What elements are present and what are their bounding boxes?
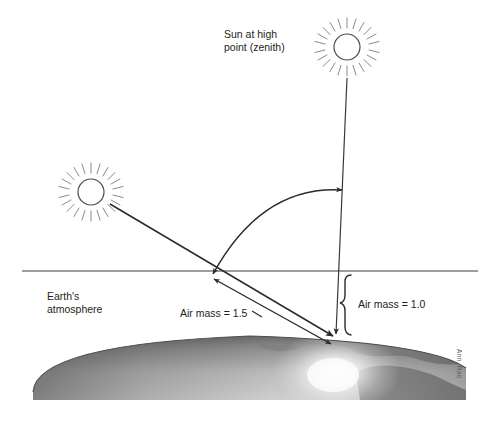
artist-credit: Ann. Rao: [456, 349, 463, 379]
sun-icon-zenith: [315, 18, 379, 76]
sun-disc: [78, 179, 104, 205]
label-zenith-sun: Sun at high point (zenith): [224, 28, 285, 54]
zenith-angle-arc: [213, 190, 342, 274]
label-air-mass-vertical: Air mass = 1.0: [358, 298, 425, 311]
air-mass-vertical-brace: [340, 275, 351, 335]
sun-disc: [334, 34, 360, 60]
earth-surface: [33, 330, 466, 414]
sun-icon-low: [59, 163, 123, 221]
label-air-mass-slant: Air mass = 1.5: [180, 307, 247, 320]
air-mass-slant-leader: [252, 311, 262, 317]
earth-edge-shading: [33, 336, 466, 400]
label-earth-atmosphere: Earth's atmosphere: [47, 290, 102, 316]
subsolar-core: [307, 358, 359, 392]
diagram-canvas: [0, 0, 499, 421]
air-mass-diagram: Sun at high point (zenith) Earth's atmos…: [0, 0, 499, 421]
